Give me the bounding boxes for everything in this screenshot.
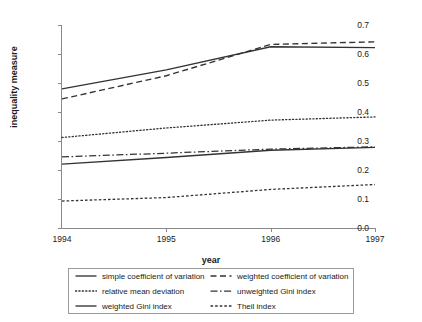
legend-swatch-solid [75, 302, 97, 310]
x-tick-mark [271, 228, 272, 232]
series-line [62, 185, 375, 202]
plot-area: 0.00.10.20.30.40.50.60.7 199419951996199… [62, 25, 375, 228]
legend-entry: weighted coefficient of variation [210, 269, 361, 284]
legend-swatch-dashed [210, 272, 232, 280]
legend-swatch-finedash [210, 302, 232, 310]
y-axis-label: inequality measure [9, 27, 19, 147]
x-tick-label: 1995 [157, 235, 176, 244]
series-line [62, 47, 375, 89]
legend-entry: relative mean deviation [75, 284, 210, 299]
x-axis-ticks: 1994199519961997 [62, 228, 375, 248]
legend-swatch-solid [75, 272, 97, 280]
x-tick-mark [375, 228, 376, 232]
chart-legend: simple coefficient of variationweighted … [68, 268, 354, 314]
legend-entry: simple coefficient of variation [75, 269, 210, 284]
legend-label: unweighted Gini index [237, 287, 316, 296]
x-axis-label: year [0, 255, 422, 265]
legend-swatch-dashdot [210, 287, 232, 295]
legend-label: Theil index [237, 302, 276, 311]
x-tick-label: 1994 [53, 235, 72, 244]
x-tick-mark [166, 228, 167, 232]
legend-label: weighted Gini index [102, 302, 172, 311]
x-tick-label: 1997 [366, 235, 385, 244]
legend-label: relative mean deviation [102, 287, 184, 296]
chart-figure: inequality measure 0.00.10.20.30.40.50.6… [0, 0, 422, 322]
legend-entry: Theil index [210, 299, 361, 314]
series-lines [62, 25, 375, 228]
legend-label: weighted coefficient of variation [237, 272, 348, 281]
legend-swatch-dotted [75, 287, 97, 295]
series-line [62, 42, 375, 99]
x-tick-label: 1996 [261, 235, 280, 244]
legend-label: simple coefficient of variation [102, 272, 205, 281]
series-line [62, 117, 375, 138]
legend-entry: unweighted Gini index [210, 284, 361, 299]
legend-entry: weighted Gini index [75, 299, 210, 314]
